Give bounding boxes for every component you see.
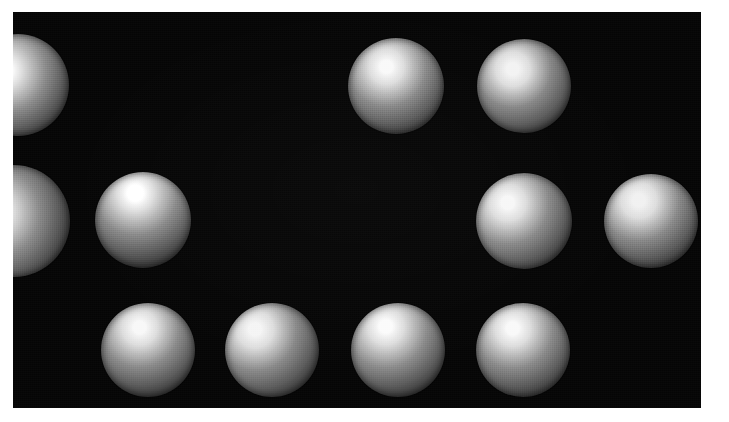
figure-root: [0, 0, 729, 422]
shaded-sphere: [476, 173, 572, 269]
shaded-sphere: [13, 34, 69, 136]
shaded-sphere: [348, 38, 444, 134]
shaded-sphere: [476, 303, 570, 397]
shaded-sphere: [13, 165, 70, 277]
shaded-sphere: [604, 174, 698, 268]
shaded-sphere: [225, 303, 319, 397]
shaded-sphere: [351, 303, 445, 397]
shaded-sphere: [477, 39, 571, 133]
stimulus-panel: [13, 12, 701, 408]
shaded-sphere: [95, 172, 191, 268]
shaded-sphere: [101, 303, 195, 397]
